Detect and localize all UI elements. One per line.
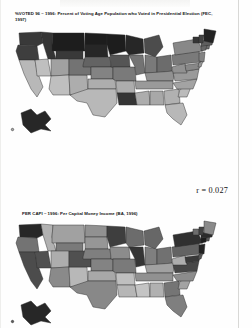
state-tn bbox=[135, 81, 173, 89]
state-hi bbox=[11, 128, 14, 131]
state-ga bbox=[164, 281, 180, 297]
figure-caption-per-capita-income: PER CAPI – 1996: Per Capital Money Incom… bbox=[22, 211, 227, 217]
state-ok bbox=[88, 79, 116, 89]
state-ne bbox=[83, 249, 111, 259]
state-mi bbox=[144, 227, 163, 249]
state-me bbox=[204, 29, 216, 43]
state-ar bbox=[116, 81, 135, 93]
state-fl bbox=[165, 103, 187, 125]
state-tx bbox=[70, 281, 117, 309]
choropleth-map-per-capita-income bbox=[7, 220, 231, 328]
state-nd bbox=[85, 225, 107, 237]
state-al bbox=[150, 91, 164, 105]
state-or bbox=[16, 237, 39, 252]
state-tn bbox=[135, 273, 173, 281]
state-tx bbox=[70, 89, 117, 117]
state-ut bbox=[51, 251, 69, 268]
state-ky bbox=[145, 263, 175, 273]
state-la bbox=[117, 285, 137, 297]
state-or bbox=[16, 45, 39, 60]
state-nj bbox=[199, 244, 205, 254]
us-map-svg-income bbox=[7, 220, 231, 328]
state-ms bbox=[135, 283, 150, 297]
state-ks bbox=[91, 67, 113, 79]
state-az bbox=[49, 267, 70, 287]
state-me bbox=[204, 221, 216, 235]
state-mi bbox=[144, 35, 163, 57]
page-top-bleed bbox=[60, 0, 190, 7]
figure-caption-voter-turnout: %VOTED 96 – 1996: Percent of Voting Age … bbox=[15, 11, 220, 23]
state-mt bbox=[52, 33, 85, 51]
document-page: %VOTED 96 – 1996: Percent of Voting Age … bbox=[0, 0, 252, 328]
us-map-svg-turnout bbox=[7, 27, 231, 179]
state-nh bbox=[199, 227, 204, 235]
state-ut bbox=[51, 59, 69, 76]
correlation-coefficient: r = 0.027 bbox=[196, 186, 228, 195]
state-oh bbox=[157, 247, 172, 265]
state-wa bbox=[19, 32, 43, 46]
state-mn bbox=[107, 226, 126, 247]
state-in bbox=[145, 55, 157, 73]
state-mn bbox=[107, 34, 126, 55]
state-nd bbox=[85, 33, 107, 45]
state-nh bbox=[199, 35, 204, 43]
state-nv bbox=[35, 251, 51, 268]
state-ar bbox=[116, 273, 135, 285]
state-nv bbox=[35, 59, 51, 76]
state-in bbox=[145, 247, 157, 265]
state-ak bbox=[21, 301, 51, 325]
state-ia bbox=[110, 247, 130, 259]
state-la bbox=[117, 93, 137, 105]
state-ne bbox=[83, 57, 111, 67]
state-ks bbox=[91, 259, 113, 271]
page-edge-right bbox=[238, 0, 239, 328]
state-mo bbox=[113, 67, 136, 81]
state-sd bbox=[85, 237, 108, 249]
state-vt bbox=[193, 37, 199, 43]
state-ak bbox=[21, 109, 51, 133]
page-edge-left bbox=[0, 0, 1, 328]
state-wi bbox=[126, 227, 144, 247]
state-sd bbox=[85, 45, 108, 57]
state-oh bbox=[157, 55, 172, 73]
state-ia bbox=[110, 55, 130, 67]
state-az bbox=[49, 75, 70, 95]
state-al bbox=[150, 283, 164, 297]
state-hi bbox=[11, 320, 14, 323]
state-ga bbox=[164, 89, 180, 105]
state-mt bbox=[52, 225, 85, 243]
state-wi bbox=[126, 35, 144, 55]
state-ms bbox=[135, 91, 150, 105]
state-mo bbox=[113, 259, 136, 273]
state-ky bbox=[145, 71, 175, 81]
state-vt bbox=[193, 229, 199, 235]
state-wa bbox=[19, 224, 43, 238]
state-fl bbox=[165, 295, 187, 317]
state-ok bbox=[88, 271, 116, 281]
choropleth-map-voter-turnout bbox=[7, 27, 231, 179]
state-nj bbox=[199, 52, 205, 62]
